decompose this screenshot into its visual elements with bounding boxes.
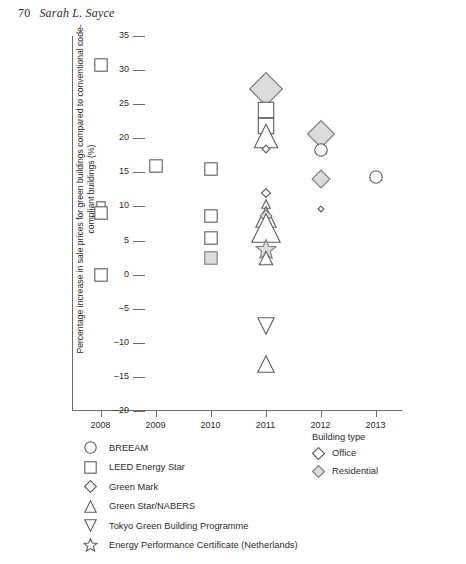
y-axis-tick: –10: [133, 343, 145, 344]
y-axis-tick-label: 20: [119, 132, 129, 142]
data-point-triangle-down[interactable]: [257, 317, 275, 335]
x-axis-tick: [266, 411, 267, 417]
scatter-chart-figure: Percentage increase in sale prices for g…: [0, 0, 466, 564]
y-axis-tick-label: 10: [119, 200, 129, 210]
y-axis-tick: 0: [133, 275, 145, 276]
marker-legend-label: Green Star/NABERS: [109, 501, 195, 511]
y-axis-tick: 10: [133, 206, 145, 207]
data-point-square[interactable]: [204, 231, 218, 245]
data-point-square[interactable]: [204, 251, 218, 265]
x-axis-tick-label: 2008: [90, 420, 110, 430]
building-type-legend-label: Residential: [332, 466, 378, 476]
building-type-legend-title: Building type: [308, 432, 448, 442]
data-point-diamond[interactable]: [249, 72, 283, 106]
y-axis-title: Percentage increase in sale prices for g…: [75, 24, 97, 354]
y-axis-tick: 15: [133, 172, 145, 173]
marker-legend-item[interactable]: LEED Energy Star: [78, 458, 328, 478]
x-axis-tick: [156, 411, 157, 417]
y-axis-tick: 25: [133, 104, 145, 105]
data-point-square[interactable]: [257, 102, 274, 119]
circle-icon: [78, 439, 102, 457]
building-type-legend-item[interactable]: Office: [308, 444, 448, 462]
marker-legend-label: Energy Performance Certificate (Netherla…: [109, 540, 298, 550]
marker-legend: BREEAMLEED Energy StarGreen MarkGreen St…: [78, 438, 328, 555]
star-icon: [78, 536, 102, 554]
square-icon: [78, 458, 102, 476]
data-point-circle[interactable]: [369, 170, 383, 184]
data-point-triangle-up[interactable]: [258, 251, 273, 266]
y-axis-tick-label: 0: [124, 269, 129, 279]
y-axis-tick-label: 5: [124, 235, 129, 245]
triangle-up-icon: [78, 497, 102, 515]
x-axis-tick-label: 2013: [365, 420, 385, 430]
data-point-triangle-up[interactable]: [257, 355, 275, 373]
marker-legend-label: Green Mark: [109, 482, 158, 492]
data-point-square[interactable]: [94, 58, 108, 72]
building-type-legend-item[interactable]: Residential: [308, 462, 448, 480]
marker-legend-item[interactable]: Green Star/NABERS: [78, 497, 328, 517]
y-axis-tick-label: –15: [114, 371, 129, 381]
y-axis-tick: –5: [133, 309, 145, 310]
diamond-residential-icon: [308, 462, 328, 480]
diamond-icon: [78, 478, 102, 496]
diamond-office-icon: [308, 444, 328, 462]
marker-legend-label: Tokyo Green Building Programme: [109, 521, 249, 531]
triangle-down-icon: [78, 517, 102, 535]
y-axis-tick-label: –10: [114, 337, 129, 347]
data-point-square[interactable]: [204, 162, 218, 176]
y-axis-tick: 35: [133, 36, 145, 37]
data-point-square[interactable]: [204, 209, 218, 223]
marker-legend-item[interactable]: Tokyo Green Building Programme: [78, 516, 328, 536]
data-point-square[interactable]: [149, 159, 163, 173]
marker-legend-label: BREEAM: [109, 443, 148, 453]
building-type-legend-label: Office: [332, 448, 356, 458]
y-axis-tick-label: 25: [119, 98, 129, 108]
x-axis-tick: [321, 411, 322, 417]
plot-area: Percentage increase in sale prices for g…: [72, 36, 402, 411]
y-axis-tick-label: –5: [119, 303, 129, 313]
data-point-diamond[interactable]: [317, 206, 324, 213]
data-point-square[interactable]: [94, 206, 108, 220]
y-axis-tick: 5: [133, 241, 145, 242]
y-axis-tick-label: 30: [119, 64, 129, 74]
data-point-diamond[interactable]: [261, 188, 271, 198]
y-axis-tick: 30: [133, 70, 145, 71]
marker-legend-label: LEED Energy Star: [109, 462, 185, 472]
y-axis-tick-label: 15: [119, 166, 129, 176]
x-axis-tick-label: 2009: [145, 420, 165, 430]
data-point-square[interactable]: [94, 268, 108, 282]
marker-legend-item[interactable]: BREEAM: [78, 438, 328, 458]
x-axis-tick: [211, 411, 212, 417]
y-axis-tick: 20: [133, 138, 145, 139]
data-point-circle[interactable]: [314, 143, 328, 157]
marker-legend-item[interactable]: Energy Performance Certificate (Netherla…: [78, 536, 328, 556]
x-axis-tick-label: 2010: [200, 420, 220, 430]
y-axis-tick: –20: [133, 411, 145, 412]
x-axis-tick-label: 2011: [256, 420, 275, 430]
y-axis-tick-label: –20: [114, 405, 129, 415]
x-axis-tick: [101, 411, 102, 417]
x-axis-tick: [376, 411, 377, 417]
data-point-diamond[interactable]: [311, 169, 330, 188]
y-axis-tick: –15: [133, 377, 145, 378]
building-type-legend: Building type OfficeResidential: [308, 432, 448, 480]
data-point-diamond[interactable]: [261, 145, 270, 154]
marker-legend-item[interactable]: Green Mark: [78, 477, 328, 497]
y-axis-tick-label: 35: [119, 30, 129, 40]
x-axis-tick-label: 2012: [310, 420, 330, 430]
building-type-legend-rows: OfficeResidential: [308, 444, 448, 480]
